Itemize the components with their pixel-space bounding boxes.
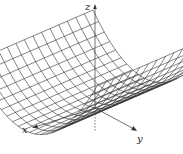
grid-line-y [46,82,166,134]
grid-line-y [24,78,144,130]
y-axis-arrow-icon [131,126,137,131]
z-axis-label: z [84,1,91,12]
z-axis-arrow-icon [93,4,97,9]
grid-line-y [80,59,183,111]
grid-line-x [7,47,131,120]
y-axis-label: y [136,133,143,144]
grid-line-x [59,25,183,98]
grid-line-x [0,55,114,128]
surface-wireframe [0,10,183,135]
grid-line-x [0,51,123,124]
grid-line-x [42,32,166,105]
grid-line-y [0,10,93,62]
grid-line-y [0,32,104,84]
grid-line-x [24,40,148,113]
grid-line-y [0,42,110,94]
grid-line-x [84,14,183,87]
grid-line-x [50,29,174,102]
grid-line-x [93,10,183,83]
parabolic-cylinder-plot: z x y [0,0,183,154]
grid-line-x [16,43,140,116]
x-axis-label: x [22,124,28,135]
grid-line-x [0,58,106,131]
y-axis [95,108,134,129]
